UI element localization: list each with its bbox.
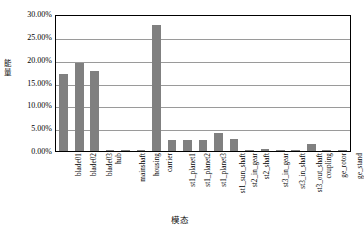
y-tick-label: 25.00% (27, 32, 52, 41)
x-tick-label: st1_planet3 (220, 119, 227, 153)
x-tick-slot: st2_shaft (242, 153, 258, 211)
x-tick-label: st3_in_gear (282, 119, 289, 153)
y-tick-label: 0.00% (31, 147, 52, 156)
x-tick-slot: carrier (148, 153, 164, 211)
x-tick-label: st2_shaft (263, 127, 270, 153)
x-axis-title: 模态 (0, 213, 360, 225)
x-tick-label: blade01 (74, 130, 81, 153)
x-tick-label: hub (115, 142, 122, 153)
x-tick-slot: st3_in_shaft (273, 153, 289, 211)
x-tick-slot: blade01 (55, 153, 71, 211)
x-tick-label: blade03 (105, 130, 112, 153)
x-tick-slot: mainshaft (117, 153, 133, 211)
x-tick-label: st1_planet2 (204, 119, 211, 153)
bar-slot (118, 16, 133, 151)
x-tick-slot: st1_planet3 (195, 153, 211, 211)
x-tick-label: blade02 (90, 130, 97, 153)
bar (307, 144, 316, 151)
x-axis-tick-labels: blade01blade02blade03hubmainshafthousing… (55, 153, 351, 211)
x-tick-slot: ge_stand (335, 153, 351, 211)
x-tick-slot: blade03 (86, 153, 102, 211)
bar (59, 74, 68, 151)
x-tick-label: coupling (325, 127, 332, 153)
x-tick-label: st2_in_gear (251, 119, 258, 153)
x-tick-label: st3_in_shaft (299, 117, 306, 153)
x-tick-label: ge_stand (356, 127, 363, 153)
x-tick-slot: blade02 (71, 153, 87, 211)
x-tick-slot: st3_out_shaft (289, 153, 305, 211)
x-tick-label: ge_rotor (340, 128, 347, 153)
x-tick-slot: st1_planet2 (180, 153, 196, 211)
x-tick-slot: housing (133, 153, 149, 211)
x-tick-slot: ge_rotor (320, 153, 336, 211)
x-tick-slot: hub (102, 153, 118, 211)
x-tick-slot: coupling (304, 153, 320, 211)
y-tick-label: 15.00% (27, 78, 52, 87)
y-tick-label: 30.00% (27, 10, 52, 19)
x-tick-label: mainshaft (139, 124, 146, 153)
y-tick-label: 10.00% (27, 101, 52, 110)
x-tick-slot: st1_sun_shaft (211, 153, 227, 211)
y-axis-tick-labels: 30.00%25.00%20.00%15.00%10.00%5.00%0.00% (12, 14, 54, 152)
x-tick-slot: st2_in_gear (226, 153, 242, 211)
x-tick-slot: st3_in_gear (258, 153, 274, 211)
x-tick-label: carrier (166, 134, 173, 153)
bar-slot (56, 16, 71, 151)
x-tick-label: st1_planet1 (189, 119, 196, 153)
bar (230, 139, 239, 151)
bar-slot (164, 16, 179, 151)
x-tick-label: st3_out_shaft (316, 114, 323, 153)
y-tick-label: 5.00% (31, 124, 52, 133)
y-tick-label: 20.00% (27, 55, 52, 64)
x-tick-label: st1_sun_shaft (239, 113, 246, 153)
x-tick-slot: st1_planet1 (164, 153, 180, 211)
x-tick-label: housing (152, 130, 159, 153)
